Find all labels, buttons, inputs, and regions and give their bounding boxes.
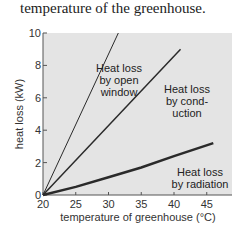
y-axis-title: heat loss (kW) — [13, 79, 25, 149]
y-tick-label: 4 — [35, 124, 41, 136]
x-tick-label: 35 — [135, 198, 147, 210]
x-tick-label: 20 — [37, 198, 49, 210]
open-window-label: Heat lossby openwindow — [96, 62, 142, 98]
y-tick-label: 8 — [35, 59, 41, 71]
line-chart: 0246810202530354045 Heat lossby openwind… — [0, 0, 244, 233]
x-tick-label: 40 — [168, 198, 180, 210]
x-axis-title: temperature of greenhouse (°C) — [60, 211, 215, 223]
y-tick-label: 10 — [29, 27, 41, 39]
y-tick-label: 6 — [35, 92, 41, 104]
x-tick-label: 45 — [201, 198, 213, 210]
radiation-label: Heat lossby radiation — [172, 166, 229, 190]
y-tick-label: 2 — [35, 157, 41, 169]
x-tick-label: 30 — [102, 198, 114, 210]
x-tick-label: 25 — [70, 198, 82, 210]
